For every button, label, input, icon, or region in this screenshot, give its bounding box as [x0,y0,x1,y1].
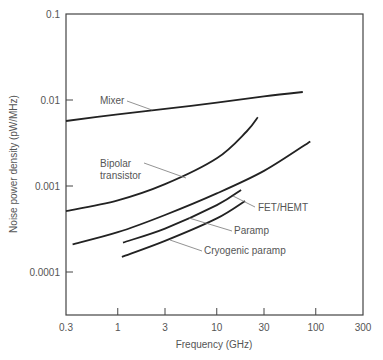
y-tick-label: 0.01 [41,95,61,106]
x-tick-label: 3 [162,322,168,333]
annotation-label: transistor [100,170,142,181]
y-tick-label: 0.001 [35,181,60,192]
annotation-label: FET/HEMT [258,202,308,213]
y-axis-label: Noise power density (pW/MHz) [8,95,19,233]
series-line [73,141,311,244]
annotation-label: Cryogenic paramp [204,245,286,256]
x-tick-label: 10 [211,322,223,333]
x-tick-label: 30 [258,322,270,333]
annotation-label: Mixer [100,95,125,106]
x-tick-label: 100 [307,322,324,333]
x-axis: 0.3131030100300 [59,308,372,333]
x-tick-label: 0.3 [59,322,73,333]
annotation-label: Paramp [234,225,269,236]
y-tick-label: 0.1 [46,9,60,20]
x-tick-label: 300 [355,322,372,333]
x-axis-label: Frequency (GHz) [176,339,253,350]
noise-power-chart: 0.3131030100300 0.10.010.0010.0001 Mixer… [0,0,383,360]
annotation-label: Bipolar [100,158,132,169]
annotations: MixerBipolartransistorFET/HEMTParampCryo… [100,95,308,256]
x-tick-label: 1 [115,322,121,333]
y-tick-label: 0.0001 [29,267,60,278]
